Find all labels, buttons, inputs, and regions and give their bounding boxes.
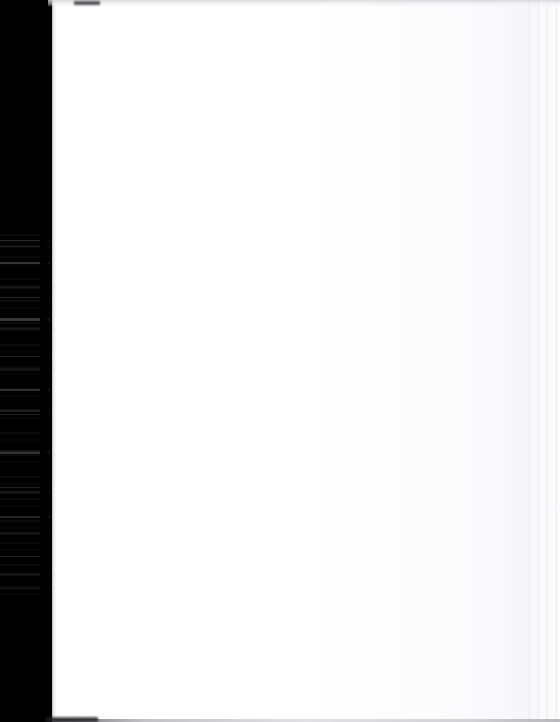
gutter-streak	[0, 297, 50, 298]
page-sheet	[48, 0, 560, 722]
gutter-scanline-streaks	[0, 228, 50, 610]
gutter-upper-solid	[0, 0, 47, 250]
gutter-streak	[0, 452, 50, 454]
gutter-lower-solid	[0, 606, 48, 722]
gutter-streak	[0, 556, 50, 557]
gutter-streak	[0, 516, 50, 518]
page-content-area	[82, 56, 530, 666]
binding-gutter	[0, 0, 52, 722]
gutter-streak	[0, 487, 50, 488]
gutter-streak	[0, 414, 50, 415]
gutter-streak	[0, 262, 50, 264]
gutter-streak	[0, 318, 50, 321]
gutter-streak	[0, 389, 50, 391]
page-edge-striations	[526, 0, 560, 722]
gutter-streak	[0, 356, 50, 357]
scanned-page-frame	[0, 0, 560, 722]
gutter-streak	[0, 588, 50, 589]
